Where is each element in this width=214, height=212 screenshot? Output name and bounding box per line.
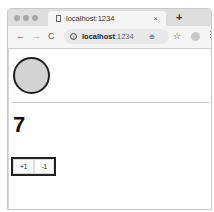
menu-icon[interactable]: ⋮ — [206, 30, 212, 40]
counter-value: 7 — [13, 112, 25, 138]
browser-toolbar: ← → C i localhost :1234 ⊕ ☆ ⋮ — [8, 26, 211, 49]
url-host: localhost — [82, 32, 115, 41]
close-window-icon[interactable] — [14, 15, 20, 21]
info-icon[interactable]: i — [70, 33, 77, 40]
counter-buttons: +1 -1 — [11, 157, 56, 176]
maximize-window-icon[interactable] — [32, 15, 38, 21]
address-bar[interactable]: i localhost :1234 ⊕ — [64, 29, 169, 44]
url-port: :1234 — [115, 32, 134, 41]
browser-window: localhost:1234 × + ← → C i localhost :12… — [7, 8, 212, 210]
browser-tab[interactable]: localhost:1234 × — [48, 11, 166, 26]
zoom-icon[interactable]: ⊕ — [149, 33, 155, 41]
bookmark-star-icon[interactable]: ☆ — [173, 31, 181, 41]
forward-icon[interactable]: → — [32, 31, 41, 41]
tab-close-icon[interactable]: × — [153, 14, 158, 23]
circle-shape — [13, 57, 50, 94]
profile-avatar[interactable] — [191, 32, 200, 41]
page-content: 7 +1 -1 — [8, 49, 211, 209]
tab-bar: localhost:1234 × + — [8, 9, 211, 26]
page-icon — [56, 15, 61, 22]
decrement-button[interactable]: -1 — [34, 159, 54, 174]
reload-icon[interactable]: C — [48, 31, 55, 41]
divider — [12, 102, 209, 103]
back-icon[interactable]: ← — [16, 31, 25, 41]
tab-title: localhost:1234 — [66, 14, 114, 23]
increment-button[interactable]: +1 — [13, 159, 34, 174]
new-tab-button[interactable]: + — [176, 11, 182, 23]
minimize-window-icon[interactable] — [23, 15, 29, 21]
